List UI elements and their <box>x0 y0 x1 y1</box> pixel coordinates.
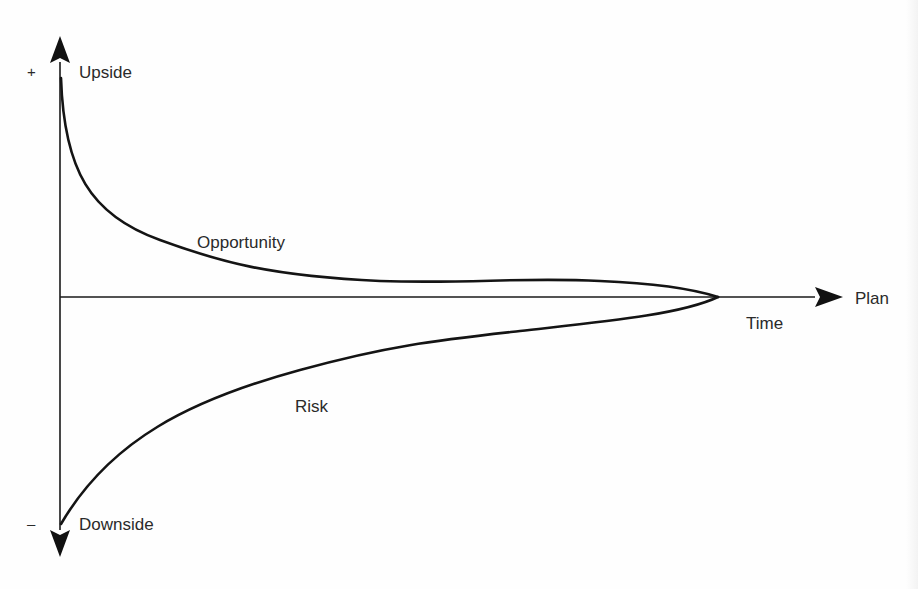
down-arrow-icon <box>50 530 70 557</box>
risk-label: Risk <box>295 397 329 416</box>
opportunity-curve <box>61 78 718 297</box>
time-label: Time <box>746 314 783 333</box>
up-arrow-icon <box>50 36 70 63</box>
minus-sign: – <box>27 515 36 532</box>
risk-curve <box>61 297 718 524</box>
plan-label: Plan <box>855 289 889 308</box>
downside-label: Downside <box>79 515 154 534</box>
opportunity-label: Opportunity <box>197 233 285 252</box>
diagram-canvas: + Upside – Downside Opportunity Risk Tim… <box>0 0 918 589</box>
right-arrow-icon <box>815 287 843 307</box>
risk-opportunity-diagram: + Upside – Downside Opportunity Risk Tim… <box>0 0 918 589</box>
upside-label: Upside <box>79 63 132 82</box>
plus-sign: + <box>27 63 36 80</box>
